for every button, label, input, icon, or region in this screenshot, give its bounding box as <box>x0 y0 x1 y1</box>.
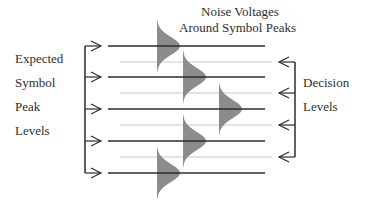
noise-diagram <box>0 0 365 204</box>
right-bracket-arrows <box>279 57 295 162</box>
left-bracket-arrows <box>85 41 101 178</box>
